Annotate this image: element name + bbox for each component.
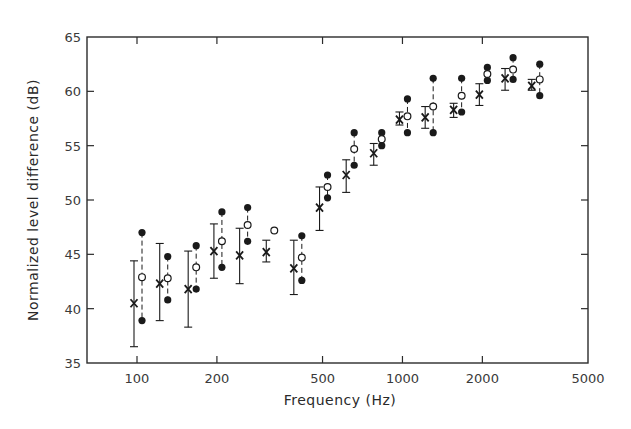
frequency-band-group <box>501 54 517 90</box>
x-tick-label: 2000 <box>466 371 499 386</box>
lower-filled-circle <box>351 162 358 169</box>
upper-filled-circle <box>324 171 331 178</box>
upper-filled-circle <box>536 61 543 68</box>
frequency-band-group <box>342 129 358 192</box>
upper-filled-circle <box>298 232 305 239</box>
lower-filled-circle <box>298 277 305 284</box>
upper-filled-circle <box>164 253 171 260</box>
open-circle <box>219 238 226 245</box>
y-tick-label: 40 <box>64 302 81 317</box>
lower-filled-circle <box>484 77 491 84</box>
lower-filled-circle <box>164 296 171 303</box>
plot-border <box>87 37 588 363</box>
x-axis-ticks: 100200500100020005000 <box>125 37 605 386</box>
open-circle <box>164 275 171 282</box>
lower-filled-circle <box>218 264 225 271</box>
y-tick-label: 45 <box>64 247 81 262</box>
frequency-band-group <box>210 208 226 278</box>
frequency-band-group <box>184 242 200 327</box>
x-tick-label: 5000 <box>571 371 604 386</box>
frequency-band-group <box>421 75 437 137</box>
open-circle <box>139 274 146 281</box>
lower-filled-circle <box>430 129 437 136</box>
open-circle <box>404 113 411 120</box>
y-tick-label: 60 <box>64 84 81 99</box>
upper-filled-circle <box>218 208 225 215</box>
open-circle <box>536 76 543 83</box>
frequency-band-group <box>236 204 252 284</box>
upper-filled-circle <box>244 204 251 211</box>
open-circle <box>324 184 331 191</box>
y-tick-label: 35 <box>64 356 81 371</box>
lower-filled-circle <box>536 92 543 99</box>
y-tick-label: 55 <box>64 139 81 154</box>
lower-filled-circle <box>509 76 516 83</box>
lower-filled-circle <box>138 317 145 324</box>
lower-filled-circle <box>324 194 331 201</box>
frequency-band-group <box>370 129 386 165</box>
open-circle <box>271 227 278 234</box>
level-difference-chart: 35404550556065 100200500100020005000 Fre… <box>0 0 631 429</box>
plot-frame <box>87 37 588 363</box>
frequency-band-group <box>450 75 466 118</box>
upper-filled-circle <box>509 54 516 61</box>
open-circle <box>244 222 251 229</box>
x-tick-label: 1000 <box>386 371 419 386</box>
open-circle <box>351 146 358 153</box>
upper-filled-circle <box>351 129 358 136</box>
lower-filled-circle <box>244 238 251 245</box>
upper-filled-circle <box>138 229 145 236</box>
y-axis-title: Normalized level difference (dB) <box>25 79 41 321</box>
open-circle <box>484 71 491 78</box>
upper-filled-circle <box>430 75 437 82</box>
open-circle <box>193 264 200 271</box>
upper-filled-circle <box>404 95 411 102</box>
frequency-band-group <box>395 95 411 136</box>
y-tick-label: 50 <box>64 193 81 208</box>
open-circle <box>298 254 305 261</box>
frequency-band-group <box>316 171 332 230</box>
x-tick-label: 500 <box>310 371 335 386</box>
frequency-band-group <box>130 229 146 347</box>
open-circle <box>378 136 385 143</box>
open-circle <box>510 66 517 73</box>
upper-filled-circle <box>193 242 200 249</box>
frequency-band-group <box>290 232 306 294</box>
open-circle <box>430 103 437 110</box>
frequency-band-group <box>528 61 544 100</box>
lower-filled-circle <box>458 108 465 115</box>
frequency-band-group <box>475 64 491 106</box>
x-tick-label: 100 <box>125 371 150 386</box>
x-tick-label: 200 <box>204 371 229 386</box>
x-axis-title: Frequency (Hz) <box>284 392 397 408</box>
frequency-band-group <box>156 243 172 320</box>
frequency-band-group <box>262 227 277 262</box>
lower-filled-circle <box>404 129 411 136</box>
open-circle <box>458 92 465 99</box>
y-tick-label: 65 <box>64 30 81 45</box>
upper-filled-circle <box>378 129 385 136</box>
data-points <box>130 54 543 347</box>
upper-filled-circle <box>458 75 465 82</box>
lower-filled-circle <box>193 286 200 293</box>
